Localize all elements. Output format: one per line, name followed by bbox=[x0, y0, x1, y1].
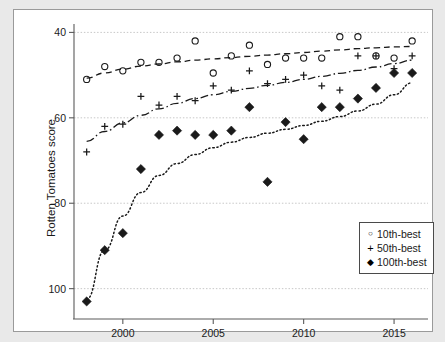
y-tick-label: 100 bbox=[26, 283, 66, 295]
data-point-10th-best bbox=[228, 53, 234, 59]
x-tick-label: 2015 bbox=[382, 327, 405, 339]
data-point-100th-best bbox=[154, 130, 163, 139]
chart-figure: Rotten Tomatoes score 100806040 20002005… bbox=[0, 0, 445, 342]
data-point-10th-best bbox=[282, 55, 288, 61]
data-point-100th-best bbox=[408, 68, 417, 77]
data-point-100th-best bbox=[191, 130, 200, 139]
data-point-50th-best bbox=[119, 121, 126, 128]
data-point-100th-best bbox=[371, 83, 380, 92]
x-tick-label: 2005 bbox=[202, 327, 225, 339]
data-point-50th-best bbox=[210, 82, 217, 89]
data-point-10th-best bbox=[301, 55, 307, 61]
data-point-10th-best bbox=[264, 61, 270, 67]
data-point-10th-best bbox=[120, 68, 126, 74]
data-point-50th-best bbox=[246, 67, 253, 74]
data-point-100th-best bbox=[263, 177, 272, 186]
data-point-10th-best bbox=[192, 38, 198, 44]
y-tick-label: 40 bbox=[26, 26, 66, 38]
data-point-100th-best bbox=[389, 68, 398, 77]
chart-legend: ○10th-best+50th-best◆100th-best bbox=[359, 222, 434, 274]
legend-item-label: 100th-best bbox=[377, 257, 427, 268]
data-point-100th-best bbox=[245, 103, 254, 112]
data-point-10th-best bbox=[355, 34, 361, 40]
legend-item-label: 50th-best bbox=[377, 243, 421, 254]
data-point-100th-best bbox=[353, 94, 362, 103]
data-point-50th-best bbox=[83, 149, 90, 156]
data-point-100th-best bbox=[299, 135, 308, 144]
x-tick-label: 2010 bbox=[292, 327, 315, 339]
data-point-10th-best bbox=[319, 55, 325, 61]
data-point-100th-best bbox=[82, 297, 91, 306]
plus-icon: + bbox=[364, 243, 377, 254]
legend-item-label: 10th-best bbox=[377, 229, 421, 240]
data-point-10th-best bbox=[409, 38, 415, 44]
data-point-50th-best bbox=[156, 102, 163, 109]
y-tick-label: 60 bbox=[26, 112, 66, 124]
data-point-100th-best bbox=[136, 164, 145, 173]
data-point-100th-best bbox=[227, 126, 236, 135]
data-point-50th-best bbox=[101, 123, 108, 130]
data-point-50th-best bbox=[282, 76, 289, 83]
data-point-10th-best bbox=[138, 59, 144, 65]
y-axis-label: Rotten Tomatoes score bbox=[45, 78, 57, 278]
data-point-100th-best bbox=[100, 246, 109, 255]
data-point-10th-best bbox=[337, 34, 343, 40]
data-point-10th-best bbox=[210, 70, 216, 76]
data-point-10th-best bbox=[102, 63, 108, 69]
data-point-50th-best bbox=[138, 93, 145, 100]
data-point-100th-best bbox=[317, 103, 326, 112]
filled-diamond-icon: ◆ bbox=[364, 258, 377, 267]
data-point-50th-best bbox=[228, 87, 235, 94]
data-point-10th-best bbox=[391, 55, 397, 61]
data-point-100th-best bbox=[118, 229, 127, 238]
legend-item-50th-best: +50th-best bbox=[364, 241, 427, 255]
legend-item-100th-best: ◆100th-best bbox=[364, 255, 427, 269]
data-point-10th-best bbox=[84, 76, 90, 82]
data-point-100th-best bbox=[281, 117, 290, 126]
x-tick-label: 2000 bbox=[111, 327, 134, 339]
data-point-50th-best bbox=[300, 72, 307, 79]
legend-item-10th-best: ○10th-best bbox=[364, 227, 427, 241]
scatter-plot bbox=[14, 10, 432, 331]
data-point-100th-best bbox=[172, 126, 181, 135]
data-point-10th-best bbox=[246, 42, 252, 48]
data-point-50th-best bbox=[174, 93, 181, 100]
data-point-100th-best bbox=[209, 130, 218, 139]
data-point-50th-best bbox=[336, 87, 343, 94]
open-circle-icon: ○ bbox=[364, 230, 377, 238]
data-point-50th-best bbox=[409, 52, 416, 59]
data-point-50th-best bbox=[318, 82, 325, 89]
y-tick-label: 80 bbox=[26, 197, 66, 209]
data-point-100th-best bbox=[335, 103, 344, 112]
data-point-50th-best bbox=[355, 52, 362, 59]
chart-frame: Rotten Tomatoes score 100806040 20002005… bbox=[13, 9, 433, 332]
data-point-10th-best bbox=[174, 55, 180, 61]
